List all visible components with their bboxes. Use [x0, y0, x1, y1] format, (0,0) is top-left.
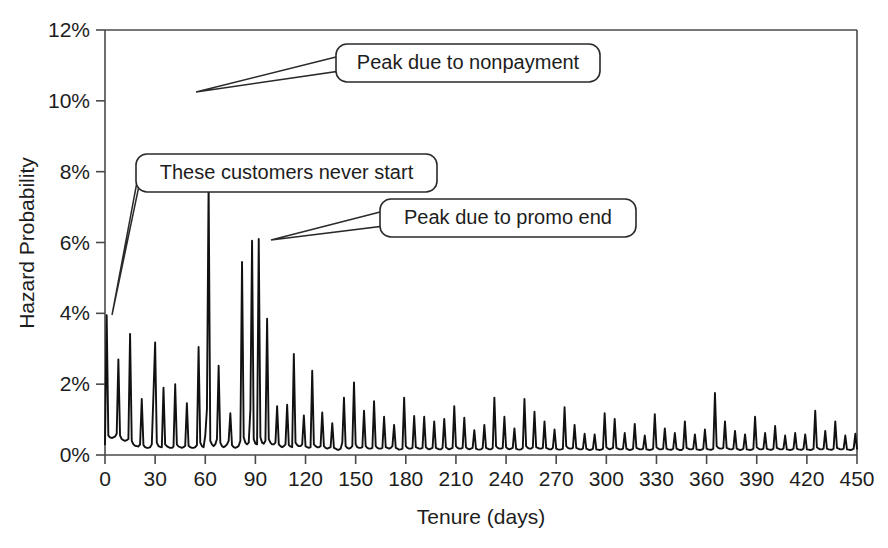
y-tick-label: 0% — [60, 443, 90, 466]
callout-text-promo-end: Peak due to promo end — [404, 206, 612, 228]
y-tick-label: 12% — [48, 18, 90, 41]
x-tick-label: 240 — [489, 467, 524, 490]
callout-leader-nonpayment — [196, 56, 340, 92]
y-tick-label: 6% — [60, 231, 90, 254]
y-tick-label: 8% — [60, 160, 90, 183]
annotations-group: Peak due to nonpaymentThese customers ne… — [112, 44, 636, 315]
chart-canvas: 0%2%4%6%8%10%12% 03060901201501802102402… — [0, 0, 888, 548]
x-tick-label: 300 — [589, 467, 624, 490]
callout-leader-promo-end — [271, 211, 384, 240]
callout-leader-never-start — [112, 166, 140, 315]
x-tick-label: 150 — [338, 467, 373, 490]
x-tick-label: 390 — [739, 467, 774, 490]
x-tick-label: 330 — [639, 467, 674, 490]
y-axis-title: Hazard Probability — [15, 157, 38, 329]
x-tick-label: 180 — [388, 467, 423, 490]
x-tick-label: 360 — [689, 467, 724, 490]
x-tick-label: 210 — [438, 467, 473, 490]
y-tick-label: 10% — [48, 89, 90, 112]
callout-text-never-start: These customers never start — [160, 161, 414, 183]
hazard-probability-chart-figure: 0%2%4%6%8%10%12% 03060901201501802102402… — [0, 0, 888, 548]
x-tick-label: 420 — [789, 467, 824, 490]
x-tick-label: 90 — [244, 467, 267, 490]
x-tick-label: 270 — [539, 467, 574, 490]
y-tick-label: 2% — [60, 372, 90, 395]
x-tick-label: 0 — [99, 467, 111, 490]
x-tick-label: 120 — [288, 467, 323, 490]
x-tick-label: 450 — [839, 467, 874, 490]
y-axis: 0%2%4%6%8%10%12% — [48, 18, 105, 466]
y-tick-label: 4% — [60, 301, 90, 324]
x-axis-title: Tenure (days) — [417, 505, 545, 528]
callout-text-nonpayment: Peak due to nonpayment — [357, 51, 580, 73]
x-axis: 0306090120150180210240270300330360390420… — [99, 455, 874, 490]
x-tick-label: 30 — [143, 467, 166, 490]
x-tick-label: 60 — [194, 467, 217, 490]
